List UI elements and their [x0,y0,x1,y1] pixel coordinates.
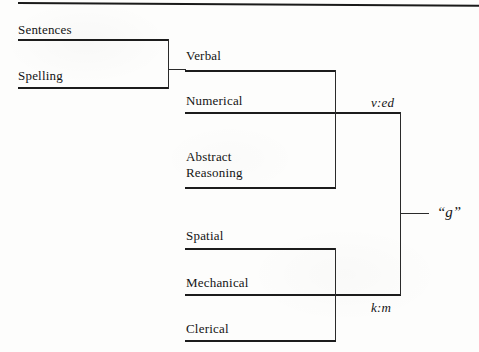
test-label-numerical: Numerical [186,93,243,108]
group-factor-label-km: k:m [371,300,391,315]
top-rule [18,2,479,7]
bracket-vertical-verbal [168,39,169,89]
bracket-vertical-ved [335,70,336,188]
group-factor-label-ved: v:ed [371,95,394,110]
bracket-vertical-g [400,112,401,295]
bracket-stub-verbal [168,69,186,70]
test-label-verbal: Verbal [186,48,221,63]
general-factor-label-g: “g” [437,204,461,220]
test-label-spatial: Spatial [186,228,224,243]
test-label-mechanical: Mechanical [186,275,249,290]
underline-numerical [185,112,401,114]
bracket-stub-g [400,213,429,214]
underline-clerical [185,340,336,342]
underline-spatial [185,248,336,250]
underline-abstract-reasoning [185,187,336,189]
underline-sentences [18,39,169,41]
underline-verbal [185,70,336,72]
test-label-abstract-reasoning: Abstract Reasoning [186,149,243,181]
figure-canvas: Sentences Spelling Verbal Numerical Abst… [0,0,479,352]
test-label-clerical: Clerical [186,321,229,336]
test-label-spelling: Spelling [18,68,63,83]
underline-mechanical [185,294,401,296]
bracket-vertical-km [335,248,336,340]
test-label-sentences: Sentences [18,22,72,37]
underline-spelling [18,87,169,89]
